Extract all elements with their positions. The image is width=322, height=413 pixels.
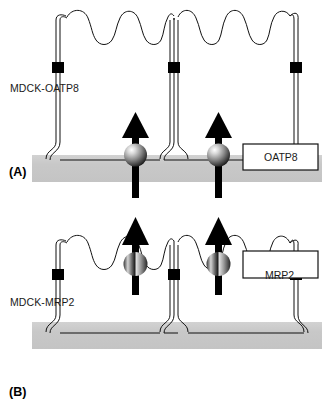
membrane-mid-left-outer xyxy=(160,245,170,332)
membrane-mid-left-inner xyxy=(164,18,174,160)
apical-microvilli-right xyxy=(178,10,290,44)
cell-line-label-a: MDCK-OATP8 xyxy=(10,82,79,94)
tight-junction-group xyxy=(52,62,302,73)
membrane-mid-right-outer xyxy=(178,245,188,332)
panel-letter-a: (A) xyxy=(9,165,26,179)
panel-b-graphic xyxy=(0,207,322,413)
cell-line-label-b: MDCK-MRP2 xyxy=(10,296,75,308)
membrane-mid-left-outer xyxy=(160,20,170,159)
membrane-left-inner xyxy=(50,242,67,333)
apical-microvilli-left xyxy=(67,235,174,269)
membrane-right-outer xyxy=(290,15,294,146)
apical-microvilli-left xyxy=(67,10,174,44)
tight-junction-1 xyxy=(52,62,64,73)
tight-junction-3 xyxy=(290,62,302,73)
transporter-sphere-1 xyxy=(124,144,147,167)
tight-junction-2 xyxy=(168,269,180,280)
membrane-group xyxy=(46,10,298,160)
panel-a-graphic xyxy=(0,0,322,206)
membrane-group xyxy=(46,235,308,333)
membrane-left-outer xyxy=(46,240,66,332)
panel-b: MDCK-MRP2 (B) MRP2 xyxy=(0,207,322,413)
tight-junction-1 xyxy=(52,269,64,280)
transporter-sphere-2 xyxy=(207,144,230,167)
protein-label-mrp2: MRP2 xyxy=(265,269,294,281)
transporter-sphere-2 xyxy=(207,252,231,276)
protein-label-oatp8: OATP8 xyxy=(264,151,298,163)
panel-a: MDCK-OATP8 (A) OATP8 xyxy=(0,0,322,206)
panel-letter-b: (B) xyxy=(9,385,26,399)
transporter-sphere-1 xyxy=(124,252,148,276)
support-band xyxy=(32,322,322,349)
membrane-mid-right-outer xyxy=(178,20,188,159)
tight-junction-2 xyxy=(168,62,180,73)
figure-canvas: MDCK-OATP8 (A) OATP8 xyxy=(0,0,322,413)
